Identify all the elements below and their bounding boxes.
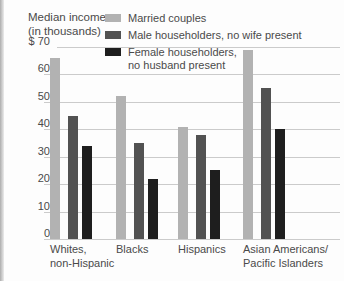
- bar-whites-non-hispanic-female-householders: [82, 146, 92, 239]
- bar-blacks-female-householders: [148, 179, 158, 239]
- legend-swatch-icon: [105, 48, 121, 56]
- bar-whites-non-hispanic-married-couples: [50, 58, 60, 239]
- bar-hispanics-female-householders: [210, 170, 220, 239]
- legend-item-0: Married couples: [105, 12, 302, 25]
- legend-item-label: Married couples: [128, 12, 206, 25]
- gridline-40: [44, 129, 340, 130]
- bar-hispanics-married-couples: [178, 127, 188, 239]
- y-tick-label-0: 0: [0, 227, 50, 239]
- bar-asian-pacific-islanders-male-householders: [261, 88, 271, 239]
- y-tick-label-50: 50: [0, 90, 50, 102]
- bar-whites-non-hispanic-male-householders: [68, 116, 78, 239]
- legend-item-label: Male householders, no wife present: [128, 29, 302, 42]
- legend: Married couplesMale householders, no wif…: [105, 12, 302, 76]
- legend-item-label: Female householders, no husband present: [128, 46, 237, 72]
- x-category-label-blacks: Blacks: [116, 243, 148, 257]
- gridline-0: [44, 239, 340, 240]
- y-axis-title-line1: Median income: [28, 10, 106, 24]
- gridline-50: [44, 102, 340, 103]
- y-tick-label-30: 30: [0, 145, 50, 157]
- bar-chart-figure: Median income (in thousands) Married cou…: [0, 0, 344, 281]
- bar-blacks-married-couples: [116, 96, 126, 239]
- legend-item-1: Male householders, no wife present: [105, 29, 302, 42]
- legend-item-2: Female householders, no husband present: [105, 46, 302, 72]
- x-category-label-hispanics: Hispanics: [178, 243, 226, 257]
- y-tick-label-60: 60: [0, 62, 50, 74]
- bar-hispanics-male-householders: [196, 135, 206, 239]
- gridline-60: [44, 74, 340, 75]
- y-axis-title: Median income (in thousands): [28, 10, 106, 38]
- legend-swatch-icon: [105, 31, 121, 39]
- gridline-70: [57, 47, 340, 48]
- y-tick-label-70: $ 70: [0, 35, 50, 47]
- bar-asian-pacific-islanders-female-householders: [275, 129, 285, 239]
- x-category-label-whites-non-hispanic: Whites, non-Hispanic: [50, 243, 114, 270]
- bar-asian-pacific-islanders-married-couples: [243, 50, 253, 239]
- x-category-label-asian-pacific-islanders: Asian Americans/ Pacific Islanders: [243, 243, 328, 270]
- y-tick-label-10: 10: [0, 200, 50, 212]
- y-tick-label-40: 40: [0, 117, 50, 129]
- y-tick-label-20: 20: [0, 172, 50, 184]
- bar-blacks-male-householders: [134, 143, 144, 239]
- legend-swatch-icon: [105, 14, 121, 22]
